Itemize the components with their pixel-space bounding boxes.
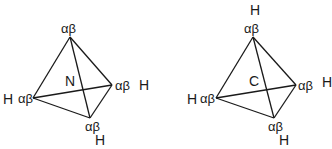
right-substituent: H: [322, 74, 332, 90]
left-substituent: H: [187, 91, 197, 107]
nitrogen-labels: N αβ αβ H αβ H αβ H: [3, 21, 149, 148]
edge-right-bottom: [90, 85, 112, 118]
top-vertex-label: αβ: [61, 21, 76, 36]
tetrahedra-diagram: N αβ αβ H αβ H αβ H C H αβ αβ H αβ H αβ …: [0, 0, 332, 149]
edge-left-bottom: [33, 98, 90, 118]
right-vertex-label: αβ: [298, 78, 313, 93]
edge-left-bottom: [216, 98, 274, 118]
center-label: C: [249, 73, 259, 89]
edge-top-left: [216, 37, 253, 98]
edge-right-bottom: [274, 85, 296, 118]
right-substituent: H: [139, 77, 149, 93]
center-label: N: [65, 73, 75, 89]
top-substituent: H: [250, 2, 260, 18]
left-vertex-label: αβ: [18, 91, 33, 106]
left-vertex-label: αβ: [200, 91, 215, 106]
bottom-substituent: H: [95, 132, 105, 148]
bottom-substituent: H: [279, 132, 289, 148]
right-vertex-label: αβ: [115, 78, 130, 93]
carbon-labels: C H αβ αβ H αβ H αβ H: [187, 2, 332, 148]
left-substituent: H: [3, 91, 13, 107]
top-vertex-label: αβ: [244, 21, 259, 36]
